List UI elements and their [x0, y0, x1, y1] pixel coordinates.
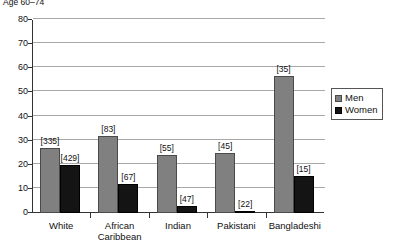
bar-value-label-women: [429]: [56, 154, 84, 163]
bar-group: [83][67]: [90, 20, 148, 213]
gridline: [33, 18, 325, 19]
y-axis-tick-label: 70: [4, 39, 28, 48]
x-axis-tick-mark: [149, 213, 150, 218]
x-axis-category-label-line: Caribbean: [90, 231, 148, 242]
legend-item-label: Women: [345, 105, 378, 115]
bar-women: [118, 184, 138, 213]
x-axis-category-label-line: White: [32, 220, 90, 231]
y-axis-tick-label: 0: [4, 208, 28, 217]
bar-value-label-women: [22]: [231, 200, 259, 209]
legend-swatch-icon: [335, 95, 342, 102]
bar-value-label-women: [15]: [290, 165, 318, 174]
y-axis-tick-label: 60: [4, 63, 28, 72]
bar-women: [60, 165, 80, 213]
bar-value-label-men: [335]: [36, 137, 64, 146]
bar-men: [274, 76, 294, 214]
y-axis-tick-label: 10: [4, 184, 28, 193]
x-axis-tick-mark: [207, 213, 208, 218]
x-axis-category-label-line: Indian: [149, 220, 207, 231]
chart-title: Age 60–74: [3, 0, 44, 7]
y-axis-tick-label: 80: [4, 15, 28, 24]
x-axis-category-label: AfricanCaribbean: [90, 220, 148, 242]
x-axis-category-label-line: Bangladeshi: [266, 220, 324, 231]
bars-layer: [335][429][83][67][55][47][45][22][35][1…: [32, 20, 324, 213]
legend-swatch-icon: [335, 107, 342, 114]
bar-value-label-men: [45]: [211, 142, 239, 151]
x-axis-category-label-line: African: [90, 220, 148, 231]
bar-group: [45][22]: [207, 20, 265, 213]
bar-group: [55][47]: [149, 20, 207, 213]
bar-value-label-women: [67]: [114, 173, 142, 182]
legend-item: Men: [335, 92, 378, 104]
bar-value-label-women: [47]: [173, 195, 201, 204]
x-axis-tick-mark: [266, 213, 267, 218]
y-axis-labels: 01020304050607080: [0, 20, 28, 213]
y-axis-tick-label: 40: [4, 112, 28, 121]
bar-women: [177, 206, 197, 213]
bar-value-label-men: [55]: [153, 144, 181, 153]
bar-men: [157, 155, 177, 213]
bar-value-label-men: [35]: [270, 65, 298, 74]
x-axis-category-label: White: [32, 220, 90, 231]
y-axis-tick-label: 20: [4, 160, 28, 169]
x-axis-tick-mark: [90, 213, 91, 218]
legend-item-label: Men: [345, 93, 363, 103]
bar-group: [335][429]: [32, 20, 90, 213]
bar-women: [294, 176, 314, 213]
bar-value-label-men: [83]: [94, 125, 122, 134]
x-axis-ticks: [32, 213, 324, 219]
y-axis-tick-label: 30: [4, 136, 28, 145]
x-axis-labels: WhiteAfricanCaribbeanIndianPakistaniBang…: [32, 220, 324, 244]
bar-group: [35][15]: [266, 20, 324, 213]
y-axis-tick-label: 50: [4, 87, 28, 96]
chart-legend: MenWomen: [331, 88, 383, 120]
x-axis-category-label-line: Pakistani: [207, 220, 265, 231]
x-axis-category-label: Bangladeshi: [266, 220, 324, 231]
x-axis-category-label: Indian: [149, 220, 207, 231]
legend-item: Women: [335, 104, 378, 116]
x-axis-category-label: Pakistani: [207, 220, 265, 231]
